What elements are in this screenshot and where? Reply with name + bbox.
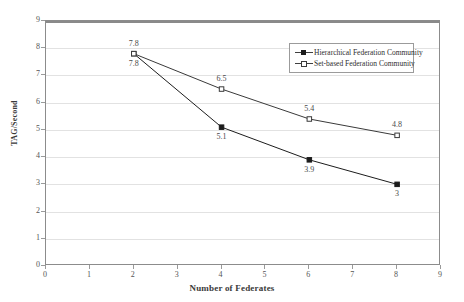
plot-area: 7.85.13.937.86.55.44.8 Hierarchical Fede… (45, 20, 440, 265)
data-point-marker (307, 117, 312, 122)
y-tick-label: 6 (20, 97, 40, 106)
y-tick-label: 1 (20, 233, 40, 242)
legend-item-set-based[interactable]: Set-based Federation Community (294, 58, 409, 69)
data-point-label: 5.1 (217, 132, 227, 141)
y-tick-label: 0 (20, 260, 40, 269)
data-point-marker (132, 51, 137, 56)
y-tick-label: 7 (20, 69, 40, 78)
y-tick-label: 3 (20, 178, 40, 187)
x-tick-label: 4 (211, 270, 231, 279)
data-point-label: 6.5 (217, 74, 227, 83)
data-point-marker (307, 158, 312, 163)
y-axis-title: TAG/Second (10, 100, 19, 145)
data-point-marker (395, 182, 400, 187)
legend-marker-filled-square-icon (294, 47, 314, 58)
chart-screenshot: TAG/Second Number of Federates 012345678… (0, 0, 464, 302)
data-point-label: 3 (395, 189, 399, 198)
data-point-label: 4.8 (392, 120, 402, 129)
data-point-marker (219, 87, 224, 92)
y-tick-label: 5 (20, 124, 40, 133)
x-axis-title: Number of Federates (0, 283, 464, 293)
x-tick-label: 3 (167, 270, 187, 279)
data-point-label: 7.8 (129, 59, 139, 68)
legend-label: Hierarchical Federation Community (314, 47, 423, 58)
legend: Hierarchical Federation Community Set-ba… (289, 43, 414, 73)
legend-item-hierarchical[interactable]: Hierarchical Federation Community (294, 47, 409, 58)
y-tick-label: 9 (20, 15, 40, 24)
x-tick-label: 2 (123, 270, 143, 279)
x-tick-label: 5 (254, 270, 274, 279)
data-point-label: 7.8 (129, 39, 139, 48)
data-point-marker (219, 125, 224, 129)
y-tick-label: 2 (20, 206, 40, 215)
data-point-marker (395, 133, 400, 138)
x-tick-label: 9 (430, 270, 450, 279)
x-tick-label: 7 (342, 270, 362, 279)
legend-marker-open-square-icon (294, 58, 314, 69)
x-tick-label: 1 (79, 270, 99, 279)
x-tick-label: 6 (298, 270, 318, 279)
legend-label: Set-based Federation Community (314, 58, 415, 69)
y-tick-label: 4 (20, 151, 40, 160)
x-tick-label: 8 (386, 270, 406, 279)
data-point-label: 3.9 (304, 165, 314, 174)
x-tick-label: 0 (35, 270, 55, 279)
y-tick-label: 8 (20, 42, 40, 51)
data-point-label: 5.4 (304, 104, 314, 113)
series-line (134, 54, 397, 185)
